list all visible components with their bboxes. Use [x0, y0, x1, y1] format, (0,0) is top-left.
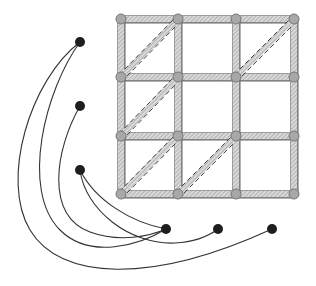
external-node: [267, 224, 277, 234]
connection-curve: [80, 170, 218, 243]
grid-node: [116, 189, 126, 199]
grid-node: [289, 131, 299, 141]
grid-diagonal: [178, 136, 236, 194]
grid-diagonal: [236, 19, 294, 77]
grid-node: [289, 72, 299, 82]
grid-node: [231, 189, 241, 199]
grid-node: [289, 14, 299, 24]
grid-diagonal-dash: [127, 142, 177, 193]
grid-diagonal: [121, 19, 178, 77]
connection-curve: [40, 42, 166, 247]
grid-node: [173, 72, 183, 82]
grid-node: [173, 189, 183, 199]
external-node: [75, 37, 85, 47]
grid-node: [116, 131, 126, 141]
grid-diagonal-dash: [127, 83, 177, 135]
grid-diagonal-dash: [119, 17, 176, 75]
grid-diagonals: [119, 17, 294, 194]
grid-diagonal-dash: [242, 25, 293, 76]
external-node: [75, 165, 85, 175]
grid-node: [173, 14, 183, 24]
connection-curve: [59, 106, 166, 238]
external-node: [161, 224, 171, 234]
grid-node: [289, 189, 299, 199]
grid-node: [173, 131, 183, 141]
grid-diagonal-dash: [184, 142, 235, 193]
grid-node: [116, 72, 126, 82]
grid-node: [231, 131, 241, 141]
grid-diagonal: [121, 136, 178, 194]
grid-diagonal-dash: [127, 25, 177, 76]
external-node: [213, 224, 223, 234]
grid-diagonal: [121, 77, 178, 136]
external-node: [75, 101, 85, 111]
grid-node: [116, 14, 126, 24]
grid-node: [231, 72, 241, 82]
grid-node: [231, 14, 241, 24]
graph-diagram: [0, 0, 316, 286]
